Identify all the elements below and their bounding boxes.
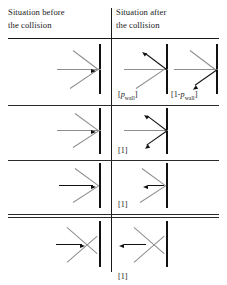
- arrowhead-up-left: [141, 50, 147, 56]
- arrowhead-up-left: [143, 113, 149, 119]
- header-after-line1: Situation after: [116, 6, 219, 19]
- row3-before-diagram: [46, 160, 108, 214]
- arrow-shaft-up-left: [147, 115, 168, 131]
- label-close-bracket: ]: [125, 200, 128, 209]
- row4-after-probability-label: [1]: [118, 272, 128, 282]
- construction-line-diagonal-upper: [75, 113, 99, 131]
- label-subscript: wall: [185, 95, 195, 101]
- construction-line-diagonal-lower: [136, 69, 166, 89]
- construction-line-diagonal-upper: [190, 50, 216, 70]
- construction-line-diagonal-lower: [73, 185, 99, 203]
- arrowhead-left: [143, 185, 148, 189]
- construction-line-horizontal: [174, 69, 218, 70]
- construction-line-diagonal-upper: [142, 168, 166, 186]
- wall-bar: [99, 221, 101, 267]
- label-close-bracket: ]: [125, 272, 128, 281]
- arrow-shaft-down-left: [195, 69, 218, 86]
- label-close-bracket: ]: [135, 90, 138, 99]
- row2-before-diagram: [46, 105, 108, 160]
- header-after-line2: the collision: [116, 19, 219, 32]
- arrow-shaft-right: [59, 185, 93, 186]
- arrow-shaft-left: [148, 185, 164, 186]
- construction-line-horizontal: [124, 130, 168, 131]
- arrow-shaft-up-left: [145, 53, 167, 70]
- crossing-line-down: [134, 227, 165, 254]
- header-before-line2: the collision: [8, 19, 108, 32]
- rule-row2-bottom: [8, 160, 219, 161]
- crossing-line-down: [67, 227, 98, 254]
- rule-row1-bottom: [8, 105, 219, 106]
- arrowhead-right: [91, 130, 96, 134]
- wall-bar: [166, 221, 168, 267]
- rule-under-header: [8, 38, 219, 39]
- rule-row3-bottom-upper: [8, 214, 219, 215]
- collision-table: Situation before the collision Situation…: [8, 6, 219, 279]
- wall-bar: [99, 108, 101, 154]
- row1-before-diagram: [46, 40, 108, 102]
- arrowhead-left: [119, 244, 124, 248]
- arrowhead-right: [91, 69, 96, 73]
- arrowhead-right: [80, 244, 85, 248]
- label-close-bracket: ]: [125, 146, 128, 155]
- construction-line-diagonal-upper: [73, 50, 99, 70]
- label-prefix: 1-: [174, 90, 181, 99]
- rule-row3-bottom-lower: [8, 217, 219, 218]
- label-close-bracket: ]: [195, 90, 198, 99]
- arrow-shaft-right: [56, 244, 82, 245]
- header-cell-before: Situation before the collision: [8, 6, 108, 31]
- construction-line-diagonal-upper: [75, 168, 99, 186]
- row4-before-diagram: [46, 218, 108, 274]
- header-before-line1: Situation before: [8, 6, 108, 19]
- arrow-shaft-down-left: [146, 130, 167, 145]
- header-cell-after: Situation after the collision: [116, 6, 219, 31]
- table-header: Situation before the collision Situation…: [8, 6, 219, 38]
- row3-after-probability-label: [1]: [118, 200, 128, 210]
- row4-after-diagram: [118, 218, 180, 274]
- label-subscript: wall: [125, 95, 135, 101]
- arrow-shaft-left: [124, 244, 146, 245]
- column-separator: [111, 8, 112, 272]
- row1-after-a-probability-label: [pwall]: [118, 90, 138, 103]
- arrowhead-down-left: [144, 144, 150, 150]
- row2-after-probability-label: [1]: [118, 146, 128, 156]
- row1-after-b-probability-label: [1-pwall]: [171, 90, 197, 103]
